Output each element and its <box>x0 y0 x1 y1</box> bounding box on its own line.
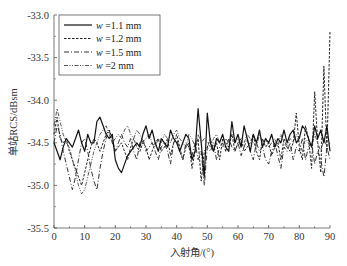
legend-label: w =1.1 mm <box>96 20 142 31</box>
y-tick-label: -35.5 <box>27 223 49 234</box>
y-axis-label: 单站RCS/dBsm <box>7 88 19 155</box>
y-tick-label: -34.0 <box>27 95 49 106</box>
x-axis-label: 入射角/(°) <box>170 246 215 259</box>
legend-label: w =1.2 mm <box>96 33 142 44</box>
x-tick-label: 40 <box>171 231 182 242</box>
legend-label: w =1.5 mm <box>96 47 142 58</box>
legend-label: w =2 mm <box>96 60 134 71</box>
x-tick-label: 30 <box>141 231 152 242</box>
x-tick-label: 60 <box>233 231 244 242</box>
x-tick-label: 90 <box>325 231 336 242</box>
x-tick-label: 50 <box>202 231 213 242</box>
y-tick-label: -33.0 <box>27 10 49 21</box>
y-tick-label: -33.5 <box>27 52 49 63</box>
legend: w =1.1 mmw =1.2 mmw =1.5 mmw =2 mm <box>59 15 160 75</box>
rcs-line-chart: 0102030405060708090-33.0-33.5-34.0-34.5-… <box>0 0 347 266</box>
y-tick-label: -35.0 <box>27 180 49 191</box>
x-tick-label: 80 <box>294 231 305 242</box>
y-tick-label: -34.5 <box>27 137 49 148</box>
x-tick-label: 20 <box>110 231 121 242</box>
x-tick-label: 10 <box>79 231 90 242</box>
series-line-4 <box>54 109 330 194</box>
x-tick-label: 0 <box>51 231 56 242</box>
x-tick-label: 70 <box>263 231 274 242</box>
